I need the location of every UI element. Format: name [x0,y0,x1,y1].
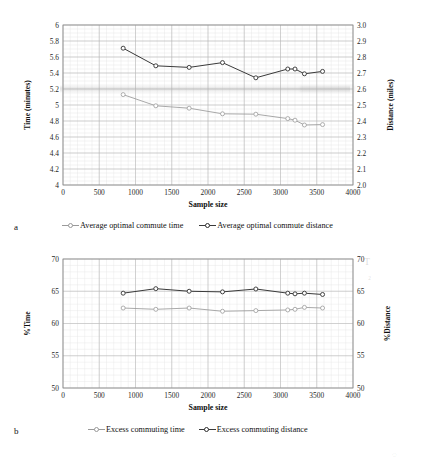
y-tick-label: 55 [52,351,60,360]
data-point [154,307,158,311]
y2-tick-label: 70 [357,255,365,264]
data-point [286,291,290,295]
chart-panel-b: 0500100015002000250030003500400050556065… [0,238,422,452]
y-tick-label: 4.8 [50,117,60,126]
y-tick-label: 4.2 [50,165,60,174]
data-point [293,292,297,296]
x-tick-label: 500 [94,188,105,197]
y2-tick-label: 2.7 [357,69,367,78]
data-point [154,104,158,108]
y2-tick-label: 2.0 [357,181,367,190]
legend-label: Average optimal commute time [80,221,183,230]
chart-b-legend: Excess commuting time Excess commuting d… [88,425,308,434]
data-point [293,307,297,311]
y2-tick-label: 2.5 [357,101,367,110]
data-point [286,308,290,312]
y-tick-label: 5.8 [50,37,60,46]
data-point [302,72,306,76]
data-point [154,287,158,291]
x-tick-label: 1500 [164,188,179,197]
data-point [321,292,325,296]
x-tick-label: 3500 [309,391,324,400]
y2-tick-label: 50 [357,384,365,393]
chart-a-legend: Average optimal commute time Average opt… [62,221,333,230]
legend-item-b-0[interactable]: Excess commuting time [88,425,185,434]
x-tick-label: 3000 [273,188,288,197]
data-point [286,117,290,121]
data-point [286,67,290,71]
y2-tick-label: 2.8 [357,53,367,62]
data-point [302,291,306,295]
y2-axis-title: %Distance [383,305,392,341]
data-point [321,306,325,310]
data-point [121,306,125,310]
y-tick-label: 5.6 [50,53,60,62]
legend-item-b-1[interactable]: Excess commuting distance [199,425,308,434]
legend-marker-line-icon [62,222,79,230]
x-tick-label: 3500 [309,188,324,197]
y-tick-label: 4.6 [50,133,60,142]
x-tick-label: 0 [61,391,65,400]
x-tick-label: 0 [61,188,65,197]
data-point [221,112,225,116]
chart-b-plot: 0500100015002000250030003500400050556065… [0,238,422,416]
x-tick-label: 2000 [201,188,216,197]
y-tick-label: 60 [52,319,60,328]
y-tick-label: 5.4 [50,69,60,78]
y-tick-label: 4.4 [50,149,60,158]
y2-tick-label: 2.3 [357,133,367,142]
panel-letter-b: b [14,426,19,436]
chart-panel-a: 0500100015002000250030003500400044.24.44… [0,0,422,240]
data-point [187,306,191,310]
y-tick-label: 6 [55,21,59,30]
legend-item-a-0[interactable]: Average optimal commute time [62,221,183,230]
data-point [321,123,325,127]
y2-tick-label: 2.4 [357,117,367,126]
data-point [254,112,258,116]
data-point [293,67,297,71]
data-point [121,46,125,50]
y2-tick-label: 2.1 [357,165,367,174]
data-point [221,290,225,294]
chart-a-plot: 0500100015002000250030003500400044.24.44… [0,0,422,215]
data-point [254,287,258,291]
x-axis-title: Sample size [189,403,228,412]
y-tick-label: 50 [52,384,60,393]
chart-b-svg: 0500100015002000250030003500400050556065… [0,238,422,416]
y-axis-title: %Time [23,311,32,336]
x-tick-label: 1000 [128,391,143,400]
y2-tick-label: 2.9 [357,37,367,46]
y2-tick-label: 3.0 [357,21,367,30]
x-tick-label: 1500 [164,391,179,400]
y-tick-label: 5 [55,101,59,110]
legend-marker-line-icon [199,426,216,434]
y-tick-label: 5.2 [50,85,60,94]
legend-item-a-1[interactable]: Average optimal commute distance [199,221,333,230]
legend-label: Excess commuting time [106,425,185,434]
chart-a-svg: 0500100015002000250030003500400044.24.44… [0,0,422,215]
y-tick-label: 4 [55,181,59,190]
data-point [221,309,225,313]
x-tick-label: 500 [94,391,105,400]
legend-marker-line-icon [88,426,105,434]
y-tick-label: 70 [52,255,60,264]
y2-tick-label: 2.2 [357,149,367,158]
scan-artifact-speck-b: ◌ [392,450,397,459]
x-tick-label: 2500 [237,391,252,400]
y2-axis-title: Distance (miles) [386,79,395,131]
data-point [254,76,258,80]
panel-letter-a: a [14,222,18,232]
data-point [321,69,325,73]
data-point [302,305,306,309]
data-point [221,61,225,65]
legend-marker-line-icon [199,222,216,230]
y2-tick-label: 65 [357,287,365,296]
data-point [187,289,191,293]
data-point [154,64,158,68]
x-axis-title: Sample size [189,200,228,209]
data-point [187,106,191,110]
x-tick-label: 1000 [128,188,143,197]
x-tick-label: 2500 [237,188,252,197]
data-point [293,118,297,122]
